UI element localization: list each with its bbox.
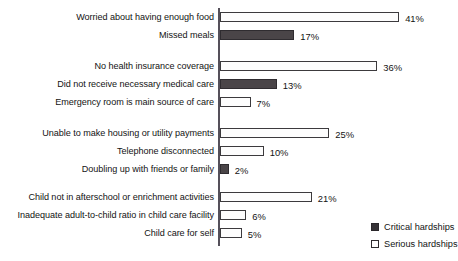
- bar-row-label: No health insurance coverage: [95, 60, 214, 73]
- legend-swatch-critical-icon: [371, 223, 379, 231]
- bar-value-label: 25%: [335, 128, 354, 141]
- bar-row-label: Emergency room is main source of care: [55, 96, 214, 109]
- bar-serious: [220, 61, 377, 71]
- bar-value-label: 13%: [283, 79, 302, 92]
- bar-value-label: 2%: [235, 164, 249, 177]
- bar-serious: [220, 97, 251, 107]
- bar-critical: [220, 164, 229, 174]
- bar-row: No health insurance coverage36%: [0, 60, 439, 73]
- legend-label-serious: Serious hardships: [384, 239, 458, 249]
- bar-value-label: 7%: [257, 97, 271, 110]
- bar-row-label: Missed meals: [159, 29, 214, 42]
- bar-row: Child not in afterschool or enrichment a…: [0, 191, 439, 204]
- legend-item-serious-hardships: Serious hardships: [371, 237, 458, 251]
- bar-value-label: 10%: [270, 146, 289, 159]
- bar-row: Doubling up with friends or family2%: [0, 163, 439, 176]
- legend-label-critical: Critical hardships: [384, 222, 454, 232]
- bar-value-label: 17%: [300, 30, 319, 43]
- bar-row: Unable to make housing or utility paymen…: [0, 127, 439, 140]
- bar-row-label: Child care for self: [144, 227, 214, 240]
- bar-row-label: Telephone disconnected: [117, 145, 214, 158]
- bar-row: Emergency room is main source of care7%: [0, 96, 439, 109]
- bar-row-label: Did not receive necessary medical care: [57, 78, 214, 91]
- bar-row-label: Inadequate adult-to-child ratio in child…: [18, 209, 214, 222]
- bar-serious: [220, 146, 264, 156]
- bar-critical: [220, 79, 277, 89]
- bar-row: Worried about having enough food41%: [0, 11, 439, 24]
- chart-legend: Critical hardships Serious hardships: [371, 220, 458, 254]
- bar-critical: [220, 30, 294, 40]
- bar-serious: [220, 12, 399, 22]
- bar-row: Did not receive necessary medical care13…: [0, 78, 439, 91]
- bar-value-label: 41%: [405, 12, 424, 25]
- bar-row-label: Doubling up with friends or family: [82, 163, 214, 176]
- bar-serious: [220, 210, 246, 220]
- bar-row: Telephone disconnected10%: [0, 145, 439, 158]
- legend-swatch-serious-icon: [371, 240, 379, 248]
- bar-value-label: 5%: [248, 228, 262, 241]
- bar-row: Missed meals17%: [0, 29, 439, 42]
- legend-item-critical-hardships: Critical hardships: [371, 220, 458, 234]
- bar-row-label: Child not in afterschool or enrichment a…: [28, 191, 214, 204]
- bar-serious: [220, 228, 242, 238]
- bar-row-label: Unable to make housing or utility paymen…: [42, 127, 214, 140]
- bar-value-label: 36%: [383, 61, 402, 74]
- bar-value-label: 6%: [252, 210, 266, 223]
- bar-serious: [220, 128, 329, 138]
- bar-serious: [220, 192, 312, 202]
- bar-value-label: 21%: [318, 192, 337, 205]
- bar-row-label: Worried about having enough food: [76, 11, 214, 24]
